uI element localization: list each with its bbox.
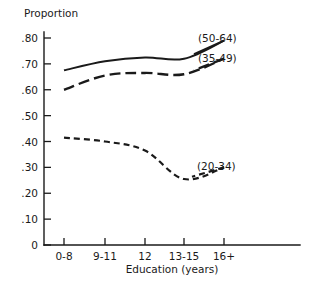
y-tick-label: .70 bbox=[21, 58, 38, 70]
x-tick-label: 0-8 bbox=[55, 250, 72, 262]
x-axis-ticks: 0-89-111213-1516+ bbox=[55, 238, 235, 262]
x-axis-title: Education (years) bbox=[126, 263, 219, 275]
series-line bbox=[64, 138, 224, 180]
series-labels-group: (50-64)(35-49)(20-34) bbox=[197, 32, 237, 172]
y-tick-label: .50 bbox=[21, 110, 38, 122]
line-chart: Proportion .80.70.60.50.40.30.20.100 0-8… bbox=[0, 0, 326, 286]
x-tick-label: 13-15 bbox=[169, 250, 200, 262]
x-tick-label: 16+ bbox=[213, 250, 235, 262]
y-tick-label: 0 bbox=[31, 239, 38, 251]
y-axis-title: Proportion bbox=[24, 7, 78, 19]
series-label: (50-64) bbox=[198, 32, 237, 44]
series-label: (20-34) bbox=[197, 160, 236, 172]
y-tick-label: .30 bbox=[21, 161, 38, 173]
series-label: (35-49) bbox=[198, 52, 237, 64]
y-axis-ticks: .80.70.60.50.40.30.20.100 bbox=[21, 32, 51, 251]
x-tick-label: 9-11 bbox=[93, 250, 117, 262]
y-tick-label: .80 bbox=[21, 32, 38, 44]
x-tick-label: 12 bbox=[138, 250, 151, 262]
y-tick-label: .40 bbox=[21, 136, 38, 148]
y-tick-label: .20 bbox=[21, 187, 38, 199]
y-tick-label: .10 bbox=[21, 213, 38, 225]
y-tick-label: .60 bbox=[21, 84, 38, 96]
chart-container: Proportion .80.70.60.50.40.30.20.100 0-8… bbox=[0, 0, 326, 286]
axes-group bbox=[44, 32, 300, 245]
